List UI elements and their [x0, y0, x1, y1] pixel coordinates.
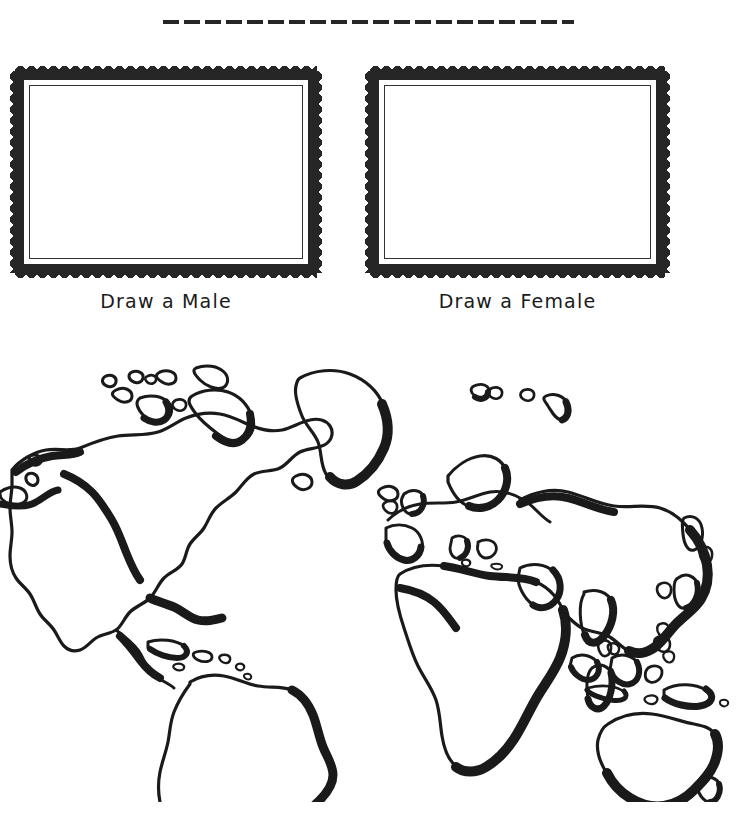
region-north-america: [10, 413, 332, 651]
south-america-shadow-east: [207, 690, 333, 802]
island-lesser-antilles-2: [244, 674, 251, 680]
scalloped-frame-female: [365, 66, 670, 278]
frame-inner-rule: [29, 85, 303, 259]
island-devon: [156, 371, 176, 384]
aleutian-island-2: [26, 473, 38, 485]
island-pacific-dot-1: [720, 700, 728, 707]
africa-shadow-gulf: [400, 588, 456, 628]
italy-shadow: [460, 541, 468, 558]
scalloped-frame-male: [10, 66, 322, 278]
island-korea: [657, 583, 671, 598]
island-crete: [491, 564, 502, 570]
borneo-shadow: [611, 662, 639, 684]
scandinavia-shadow: [469, 468, 507, 508]
world-map: [0, 352, 738, 802]
frame-inner-rule: [384, 85, 651, 259]
island-banks: [112, 388, 132, 402]
iberia-shadow: [387, 543, 421, 560]
new-guinea-shadow: [665, 689, 712, 707]
island-puerto-rico: [219, 655, 230, 663]
island-hispaniola: [193, 651, 212, 661]
island-iceland: [378, 486, 398, 500]
island-sulawesi: [645, 666, 662, 682]
dashed-divider: [163, 20, 574, 26]
island-ellesmere: [194, 366, 228, 389]
island-arctic-small-4: [145, 375, 156, 384]
island-newfoundland: [292, 474, 312, 489]
island-lesser-antilles-1: [236, 664, 244, 671]
island-arctic-small-3: [172, 399, 186, 410]
alaska-shadow: [0, 490, 58, 506]
frame-slot-male: [10, 66, 322, 278]
island-franz-josef: [520, 389, 534, 400]
caption-draw-a-male: Draw a Male: [10, 290, 322, 312]
north-america-shadow-3: [150, 598, 222, 621]
world-map-svg: [0, 352, 738, 802]
island-victoria-shadow: [144, 402, 169, 422]
dashed-rule: [163, 20, 574, 24]
island-arctic-small-2: [102, 375, 116, 386]
africa-shadow-south: [456, 610, 566, 772]
frame-slot-female: [365, 66, 670, 278]
island-ireland: [383, 501, 397, 514]
caption-draw-a-female: Draw a Female: [365, 290, 670, 312]
region-balkans-greece: [477, 540, 496, 558]
novaya-zemlya-shadow: [562, 402, 568, 420]
new-zealand-north-shadow: [710, 784, 720, 802]
drawing-area-male[interactable]: [30, 86, 302, 258]
island-timor: [645, 695, 658, 704]
north-america-shadow: [16, 452, 80, 472]
island-sicily: [462, 560, 470, 567]
north-america-shadow-2: [64, 474, 140, 580]
cuba-shadow: [150, 646, 187, 658]
island-jamaica: [173, 664, 184, 671]
worksheet-sheet: Draw a Male Draw a Female: [0, 0, 738, 815]
central-america-shadow: [120, 636, 160, 678]
australia-shadow: [607, 734, 718, 802]
greenland-shadow: [330, 404, 388, 484]
frames-row: [0, 66, 738, 278]
island-arctic-small-1: [129, 371, 143, 382]
region-south-america: [159, 675, 333, 802]
island-philippines-2: [663, 651, 674, 662]
drawing-area-female[interactable]: [385, 86, 650, 258]
svalbard-shadow: [475, 392, 488, 399]
